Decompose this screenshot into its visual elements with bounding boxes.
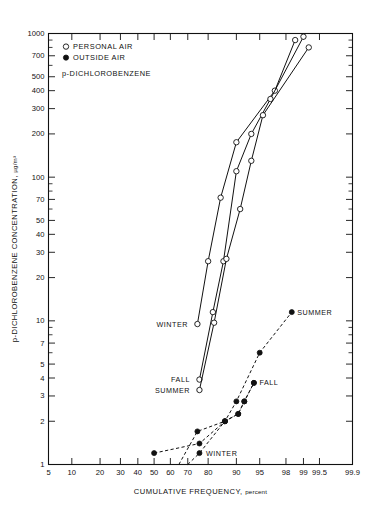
data-point-open [249,158,254,163]
plot-frame [49,34,353,465]
data-point-open [234,169,239,174]
legend-label: OUTSIDE AIR [73,53,125,62]
data-point-open [292,37,297,42]
data-point-filled [222,419,227,424]
y-tick-label: 700 [32,51,45,60]
data-point-filled [195,429,200,434]
y-tick-label: 2 [40,417,44,426]
data-point-filled [234,399,239,404]
x-tick-label: 90 [232,468,240,477]
series-line [199,47,308,390]
x-tick-label: 50 [150,468,158,477]
legend-marker-filled [63,55,68,60]
data-point-open [210,309,215,314]
point-annotation: WINTER [206,449,237,458]
x-tick-label: 70 [184,468,192,477]
data-point-filled [152,451,157,456]
x-tick-label: 60 [166,468,174,477]
compound-label: p-DICHLOROBENZENE [62,69,151,78]
y-tick-label: 10 [36,316,44,325]
data-point-open [218,195,223,200]
y-tick-label: 100 [32,173,45,182]
y-tick-label: 1000 [28,29,45,38]
series-line [199,37,303,380]
legend-label: PERSONAL AIR [73,42,133,51]
y-tick-label: 70 [36,195,44,204]
y-tick-label: 400 [32,86,45,95]
y-tick-label: 300 [32,104,45,113]
y-tick-label: 200 [32,129,45,138]
x-tick-label: 99.5 [312,468,327,477]
y-tick-label: 1 [40,460,44,469]
y-tick-label: 500 [32,72,45,81]
chart-figure: 1234571020304050701002003004005007001000… [0,0,372,518]
probability-log-chart: 1234571020304050701002003004005007001000… [0,0,372,518]
y-tick-label: 4 [40,374,44,383]
data-point-open [234,140,239,145]
data-point-filled [257,350,262,355]
data-point-filled [197,441,202,446]
data-point-open [260,112,265,117]
x-tick-label: 95 [255,468,263,477]
y-axis-title: p-DICHLOROBENZENE CONCENTRATION, µg/m³ [10,156,19,343]
y-axis-title-main: p-DICHLOROBENZENE CONCENTRATION, [10,173,19,343]
data-point-open [211,320,216,325]
legend-marker-open [63,44,68,49]
point-annotation: WINTER [157,320,188,329]
x-axis-title-main: CUMULATIVE FREQUENCY, [134,487,245,496]
data-point-open [224,256,229,261]
y-tick-label: 50 [36,216,44,225]
data-point-filled [197,451,202,456]
x-tick-label: 10 [68,468,76,477]
point-annotation: SUMMER [297,308,332,317]
point-annotation: SUMMER [155,386,190,395]
data-point-filled [236,411,241,416]
x-tick-label: 99 [299,468,307,477]
x-tick-label: 80 [204,468,212,477]
y-tick-label: 40 [36,230,44,239]
data-point-open [249,131,254,136]
data-point-open [237,206,242,211]
data-point-open [197,387,202,392]
data-point-filled [242,399,247,404]
point-annotation: FALL [171,375,190,384]
data-point-open [205,259,210,264]
y-tick-label: 3 [40,391,44,400]
x-tick-label: 40 [134,468,142,477]
point-annotation: FALL [259,378,278,387]
y-axis-title-units: µg/m³ [11,156,18,173]
data-point-open [195,321,200,326]
x-axis-title-units: percent [245,488,267,495]
y-tick-label: 20 [36,273,44,282]
series-2 [197,45,312,393]
data-point-filled [251,380,256,385]
x-tick-label: 20 [96,468,104,477]
y-tick-label: 5 [40,360,44,369]
x-tick-label: 98 [282,468,290,477]
x-tick-label: 99.9 [345,468,360,477]
data-point-filled [289,310,294,315]
x-axis-title: CUMULATIVE FREQUENCY, percent [134,487,267,496]
x-tick-label: 5 [46,468,50,477]
y-tick-label: 30 [36,248,44,257]
data-point-open [301,34,306,39]
x-tick-label: 30 [116,468,124,477]
data-point-open [306,45,311,50]
y-tick-label: 7 [40,339,44,348]
series-1 [197,34,306,382]
